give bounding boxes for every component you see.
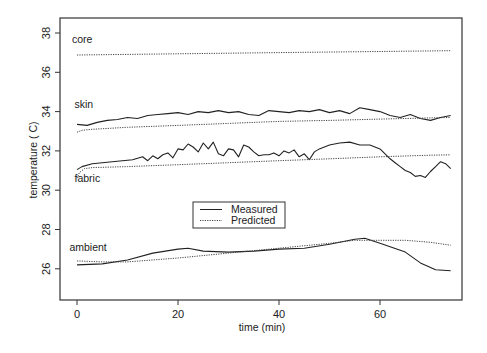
legend-label-predicted: Predicted xyxy=(231,214,276,226)
y-tick-label: 38 xyxy=(40,27,52,39)
x-tick-label: 0 xyxy=(74,308,80,320)
y-tick-label: 32 xyxy=(40,145,52,157)
y-tick-label: 36 xyxy=(40,66,52,78)
y-axis-title: temperature ( C) xyxy=(27,121,39,198)
legend: Measured Predicted xyxy=(193,202,285,228)
series-label-core: core xyxy=(72,33,93,45)
x-tick-label: 20 xyxy=(172,308,184,320)
y-tick-label: 34 xyxy=(40,105,52,117)
series-label-fabric: fabric xyxy=(74,172,100,184)
x-tick-label: 60 xyxy=(374,308,386,320)
series-label-skin: skin xyxy=(74,98,93,110)
y-tick-label: 30 xyxy=(40,184,52,196)
series-label-ambient: ambient xyxy=(69,241,106,253)
x-axis-title: time (min) xyxy=(239,321,286,333)
x-tick-label: 40 xyxy=(273,308,285,320)
y-tick-label: 26 xyxy=(40,263,52,275)
temperature-line-chart: 26283032343638 0204060 temperature ( C) … xyxy=(0,0,487,353)
y-tick-label: 28 xyxy=(40,223,52,235)
